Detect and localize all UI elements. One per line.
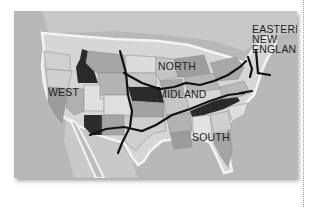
page-edge-divider (303, 0, 304, 207)
region-label-north: NORTH (158, 61, 196, 71)
region-label-west: WEST (48, 87, 79, 97)
region-label-south: SOUTH (192, 132, 230, 142)
region-label-england-line: ENGLAND (252, 44, 297, 54)
dialect-map: WEST NORTH MIDLAND SOUTH EASTERN NEW ENG… (14, 11, 297, 178)
region-label-eastern-new-england: EASTERN NEW ENGLAND (252, 24, 297, 54)
region-label-midland: MIDLAND (158, 89, 207, 99)
